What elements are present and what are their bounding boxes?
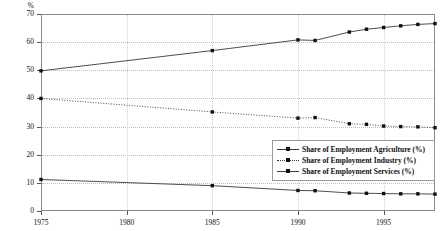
data-point-marker [399, 192, 402, 195]
data-point-marker [399, 125, 402, 128]
data-point-marker [296, 189, 299, 192]
data-point-marker [39, 178, 42, 181]
data-point-marker [433, 192, 436, 195]
data-point-marker [433, 22, 436, 25]
data-point-marker [365, 28, 368, 31]
data-point-marker [211, 184, 214, 187]
legend-item-services: Share of Employment Services (%) [277, 166, 430, 177]
series-line-2 [41, 24, 435, 71]
data-point-marker [416, 23, 419, 26]
data-point-marker [39, 69, 42, 72]
data-point-marker [365, 192, 368, 195]
data-point-marker [211, 110, 214, 113]
legend-label-industry: Share of Employment Industry (%) [302, 156, 416, 165]
data-point-marker [365, 123, 368, 126]
chart-legend: Share of Employment Agriculture (%) Shar… [272, 140, 435, 181]
data-point-marker [382, 124, 385, 127]
data-point-marker [296, 116, 299, 119]
data-point-marker [296, 38, 299, 41]
data-point-marker [39, 97, 42, 100]
data-point-marker [348, 191, 351, 194]
data-point-marker [313, 39, 316, 42]
series-layer [0, 0, 445, 231]
data-point-marker [313, 116, 316, 119]
data-point-marker [416, 125, 419, 128]
data-point-marker [348, 122, 351, 125]
data-point-marker [416, 192, 419, 195]
data-point-marker [313, 189, 316, 192]
employment-share-chart: % 010203040506070 19751980198519901995 S… [0, 0, 445, 231]
legend-label-services: Share of Employment Services (%) [302, 167, 414, 176]
legend-item-agriculture: Share of Employment Agriculture (%) [277, 144, 430, 155]
data-point-marker [211, 49, 214, 52]
data-point-marker [382, 192, 385, 195]
legend-key-industry-icon [277, 156, 299, 165]
series-line-0 [41, 179, 435, 194]
legend-key-services-icon [277, 167, 299, 176]
data-point-marker [382, 26, 385, 29]
data-point-marker [348, 30, 351, 33]
data-point-marker [399, 24, 402, 27]
series-line-1 [41, 98, 435, 127]
legend-label-agriculture: Share of Employment Agriculture (%) [302, 145, 425, 154]
legend-item-industry: Share of Employment Industry (%) [277, 155, 430, 166]
data-point-marker [433, 126, 436, 129]
legend-key-agriculture-icon [277, 145, 299, 154]
